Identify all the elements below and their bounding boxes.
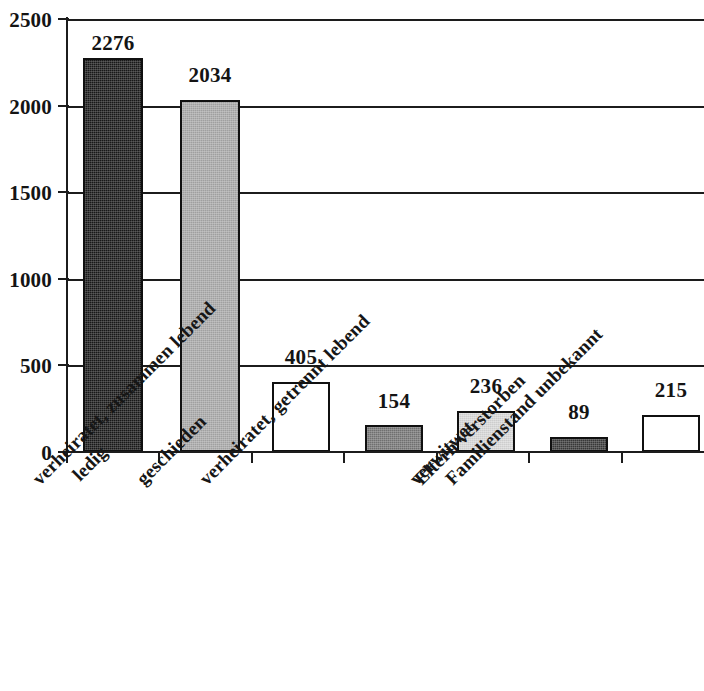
bar-texture xyxy=(552,439,606,450)
bar-fill-geschieden xyxy=(182,102,238,450)
bar-geschieden xyxy=(180,100,240,452)
plot-area xyxy=(67,19,704,452)
y-tick-1500 xyxy=(58,191,69,193)
bar-fill-eltern-verstorben xyxy=(552,439,606,450)
y-axis-line xyxy=(66,17,68,454)
y-tick-label-2000: 2000 xyxy=(9,95,52,120)
gridline-2500 xyxy=(67,19,704,21)
y-tick-1000 xyxy=(58,278,69,280)
y-tick-label-500: 500 xyxy=(20,354,52,379)
gridline-1500 xyxy=(67,192,704,194)
bar-texture xyxy=(367,427,421,450)
bar-verheiratet-getrennt-lebend xyxy=(365,425,423,452)
bar-value-familienstand-unbekannt: 215 xyxy=(642,378,700,403)
gridline-1000 xyxy=(67,279,704,281)
x-tick-6 xyxy=(621,452,623,463)
bar-chart: 2500 2000 1500 1000 500 0 2276 2034 405 … xyxy=(0,0,704,691)
y-tick-2500 xyxy=(58,18,69,20)
bar-eltern-verstorben xyxy=(550,437,608,452)
bar-familienstand-unbekannt xyxy=(642,415,700,452)
bar-value-ledig: 2276 xyxy=(83,31,143,56)
bar-value-geschieden: 2034 xyxy=(180,63,240,88)
y-tick-500 xyxy=(58,364,69,366)
y-tick-label-1000: 1000 xyxy=(9,268,52,293)
y-tick-2000 xyxy=(58,105,69,107)
bar-fill-familienstand-unbekannt xyxy=(644,417,698,450)
y-tick-label-1500: 1500 xyxy=(9,181,52,206)
x-tick-2 xyxy=(251,452,253,463)
bar-texture xyxy=(182,102,238,450)
y-tick-label-2500: 2500 xyxy=(9,8,52,33)
x-tick-5 xyxy=(528,452,530,463)
bar-fill-verheiratet-getrennt-lebend xyxy=(367,427,421,450)
bar-value-eltern-verstorben: 89 xyxy=(550,400,608,425)
gridline-2000 xyxy=(67,106,704,108)
bar-value-verheiratet-getrennt-lebend: 154 xyxy=(365,389,423,414)
x-tick-3 xyxy=(343,452,345,463)
